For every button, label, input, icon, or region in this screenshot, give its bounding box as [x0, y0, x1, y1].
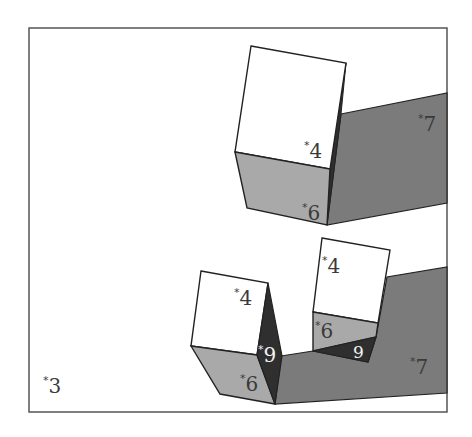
lower-left-cube-top-face — [191, 271, 268, 355]
lower-right-cube-bottom-label: 9 — [353, 342, 364, 362]
cube-shading-diagram: *4 *6 *7 *4 *6 *9 *4 *6 — [0, 0, 472, 437]
lower-right-cube-top-face — [313, 238, 390, 323]
upper-cube-top-face — [235, 46, 346, 169]
